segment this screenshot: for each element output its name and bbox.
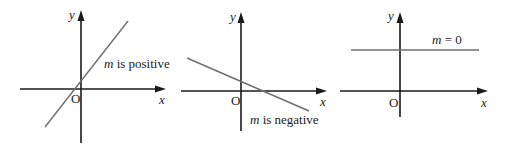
y-axis-arrow-icon [397,12,404,23]
origin-label: O [389,95,398,110]
slope-diagram: y x O m is positive y x O m is negative … [0,0,507,146]
negative-slope-line [187,58,309,111]
origin-label: O [231,93,240,108]
x-axis-label: x [480,95,487,110]
panel-negative-slope: y x O m is negative [181,9,327,131]
x-axis-label: x [158,92,165,107]
origin-label: O [71,91,80,106]
slope-annotation: m is negative [250,112,319,127]
panel-positive-slope: y x O m is positive [20,7,170,143]
y-axis-label: y [67,7,75,22]
x-axis-arrow-icon [477,88,488,95]
panel-zero-slope: y x O m = 0 [340,8,488,117]
y-axis-arrow-icon [238,12,245,23]
x-axis-label: x [319,94,326,109]
slope-annotation: m = 0 [432,32,462,47]
positive-slope-line [45,21,128,127]
y-axis-label: y [386,8,394,23]
y-axis-label: y [228,9,236,24]
y-axis-arrow-icon [78,10,85,21]
slope-annotation: m is positive [104,56,170,71]
